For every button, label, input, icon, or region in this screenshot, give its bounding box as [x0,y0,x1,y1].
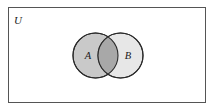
universe-label: U [14,14,23,26]
venn-diagram-figure: U A B [0,0,214,110]
label-set-a: A [84,50,92,61]
venn-diagram-canvas: U A B [0,0,214,110]
label-set-b: B [125,50,132,61]
